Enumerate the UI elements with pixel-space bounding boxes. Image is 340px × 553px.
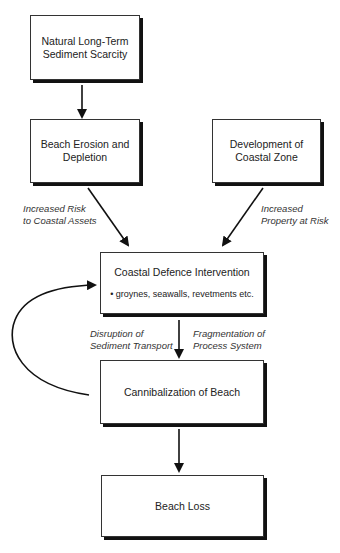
arrow-development-to-defence: [223, 188, 263, 245]
label-line: Fragmentation of: [193, 328, 265, 340]
edge-label-process-fragmentation: Fragmentation of Process System: [193, 328, 265, 351]
edge-label-sediment-transport: Disruption of Sediment Transport: [90, 328, 173, 351]
label-line: to Coastal Assets: [23, 215, 97, 227]
node-bullet: • groynes, seawalls, revetments etc.: [110, 288, 254, 301]
node-text: Sediment Scarcity: [43, 48, 128, 61]
node-defence-intervention: Coastal Defence Intervention • groynes, …: [100, 252, 264, 314]
edge-label-property-risk: Increased Property at Risk: [261, 203, 329, 226]
label-line: Increased Risk: [23, 203, 97, 215]
node-cannibalization: Cannibalization of Beach: [100, 360, 264, 424]
node-text: Depletion: [63, 151, 107, 164]
node-beach-erosion: Beach Erosion and Depletion: [30, 119, 140, 183]
node-title: Beach Loss: [155, 500, 210, 513]
label-line: Sediment Transport: [90, 340, 173, 352]
node-beach-loss: Beach Loss: [101, 475, 264, 537]
edge-label-risk-assets: Increased Risk to Coastal Assets: [23, 203, 97, 226]
feedback-curve-arrow: [12, 285, 95, 395]
label-line: Process System: [193, 340, 265, 352]
node-title: Coastal Defence Intervention: [114, 266, 249, 279]
node-sediment-scarcity: Natural Long-Term Sediment Scarcity: [30, 15, 140, 80]
node-text: Natural Long-Term: [42, 35, 129, 48]
node-text: Beach Erosion and: [41, 138, 130, 151]
label-line: Property at Risk: [261, 215, 329, 227]
node-coastal-development: Development of Coastal Zone: [212, 119, 321, 183]
node-title: Cannibalization of Beach: [124, 386, 240, 399]
label-line: Disruption of: [90, 328, 173, 340]
label-line: Increased: [261, 203, 329, 215]
node-text: Development of: [230, 138, 304, 151]
node-text: Coastal Zone: [235, 151, 297, 164]
